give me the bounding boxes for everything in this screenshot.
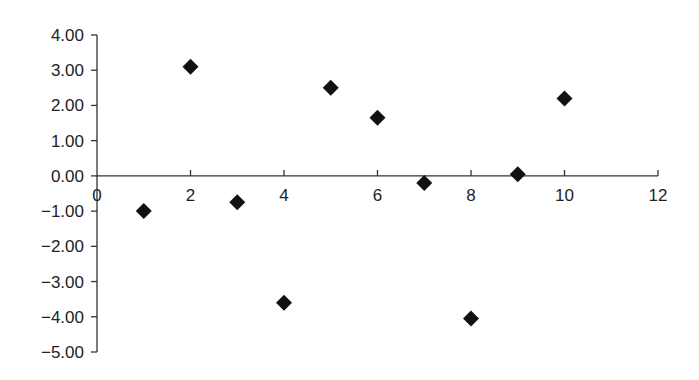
y-tick-label: −1.00 <box>41 202 84 221</box>
y-tick-label: 2.00 <box>51 96 84 115</box>
y-axis: 4.003.002.001.000.00−1.00−2.00−3.00−4.00… <box>41 26 97 362</box>
data-points <box>136 59 573 327</box>
y-tick-label: 0.00 <box>51 167 84 186</box>
y-tick-label: 1.00 <box>51 132 84 151</box>
x-tick-label: 0 <box>92 186 101 205</box>
y-tick-label: −3.00 <box>41 273 84 292</box>
diamond-marker-icon <box>416 175 432 191</box>
y-tick-label: −2.00 <box>41 237 84 256</box>
x-axis: 024681012 <box>92 170 667 205</box>
x-tick-label: 4 <box>279 186 288 205</box>
y-tick-label: 4.00 <box>51 26 84 45</box>
diamond-marker-icon <box>136 203 152 219</box>
x-tick-label: 2 <box>186 186 195 205</box>
y-tick-label: −4.00 <box>41 308 84 327</box>
y-tick-label: −5.00 <box>41 343 84 362</box>
x-tick-label: 12 <box>649 186 668 205</box>
y-tick-label: 3.00 <box>51 61 84 80</box>
diamond-marker-icon <box>229 194 245 210</box>
diamond-marker-icon <box>510 166 526 182</box>
diamond-marker-icon <box>463 311 479 327</box>
x-tick-label: 8 <box>466 186 475 205</box>
diamond-marker-icon <box>276 295 292 311</box>
x-tick-label: 10 <box>555 186 574 205</box>
diamond-marker-icon <box>557 90 573 106</box>
diamond-marker-icon <box>370 110 386 126</box>
diamond-marker-icon <box>323 80 339 96</box>
diamond-marker-icon <box>183 59 199 75</box>
x-tick-label: 6 <box>373 186 382 205</box>
scatter-chart: 4.003.002.001.000.00−1.00−2.00−3.00−4.00… <box>0 0 699 380</box>
